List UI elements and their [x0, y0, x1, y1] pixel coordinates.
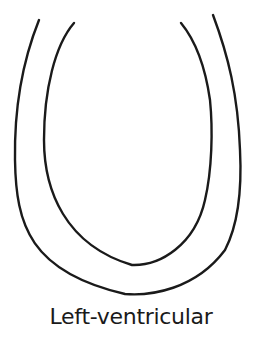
left-ventricle-diagram: [0, 0, 262, 300]
diagram-caption: Left-ventricular: [0, 304, 262, 329]
outer-wall-outline: [15, 15, 241, 294]
inner-wall-outline: [44, 23, 212, 265]
